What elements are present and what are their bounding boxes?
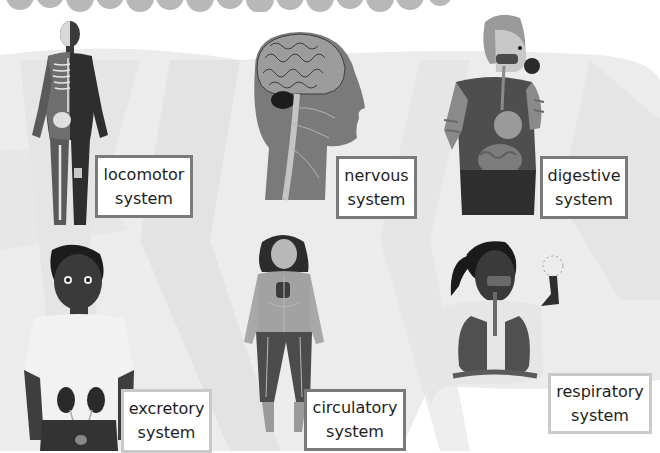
label-nervous-line1: nervous	[344, 164, 408, 188]
label-nervous-line2: system	[348, 188, 406, 212]
label-locomotor-line2: system	[115, 187, 173, 211]
cloud-border	[0, 0, 660, 12]
label-digestive-line1: digestive	[548, 164, 621, 188]
label-excretory-line2: system	[138, 421, 196, 445]
label-nervous-system: nervous system	[336, 156, 417, 219]
label-locomotor-line1: locomotor	[104, 163, 185, 187]
label-circulatory-system: circulatory system	[304, 389, 406, 451]
label-locomotor-system: locomotor system	[95, 155, 193, 218]
label-excretory-line1: excretory	[129, 397, 205, 421]
label-circulatory-line2: system	[326, 420, 384, 444]
label-respiratory-line2: system	[571, 404, 629, 428]
label-respiratory-line1: respiratory	[556, 380, 644, 404]
label-digestive-system: digestive system	[540, 156, 628, 219]
label-excretory-system: excretory system	[121, 389, 212, 453]
label-digestive-line2: system	[555, 188, 613, 212]
label-respiratory-system: respiratory system	[548, 373, 652, 434]
label-circulatory-line1: circulatory	[313, 396, 398, 420]
boy-kidneys-icon	[0, 240, 140, 451]
